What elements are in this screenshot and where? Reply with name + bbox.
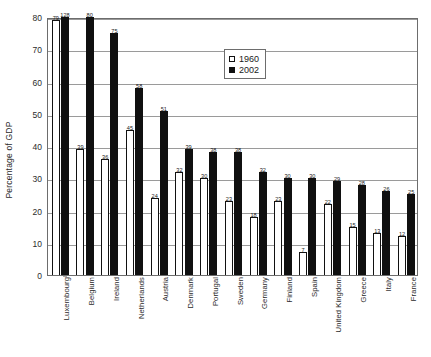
y-axis-title: Percentage of GDP <box>4 100 14 220</box>
bar-group: 1528 <box>345 19 370 275</box>
x-label-ireland: Ireland <box>112 277 121 301</box>
x-label-germany: Germany <box>260 277 269 309</box>
bar-value-2002-greece: 28 <box>359 180 365 186</box>
bar-2002-greece <box>358 185 366 275</box>
y-tick-10: 10 <box>20 239 42 249</box>
x-label-netherlands: Netherlands <box>137 277 146 319</box>
legend-swatch-2002-icon <box>229 67 235 73</box>
bar-value-1960-germany: 18 <box>251 212 257 218</box>
bar-1960-sweden <box>225 201 233 275</box>
y-tick-80: 80 <box>20 13 42 23</box>
bar-value-2002-france: 25 <box>408 189 414 195</box>
bar-value-2002-portugal: 38 <box>210 147 216 153</box>
bar-1960-united-kingdom <box>324 204 332 275</box>
bar-group: 3675 <box>97 19 122 275</box>
bar-1960-netherlands <box>126 130 134 275</box>
x-axis-category-labels: LuxembourgBelgiumIrelandNetherlandsAustr… <box>47 277 418 343</box>
bar-2002-germany <box>259 172 267 275</box>
bar-2002-united-kingdom <box>333 181 341 275</box>
y-tick-20: 20 <box>20 207 42 217</box>
bar-value-2002-germany: 32 <box>260 167 266 173</box>
x-label-austria: Austria <box>161 277 170 301</box>
legend-item-2002: 2002 <box>229 64 259 75</box>
y-tick-30: 30 <box>20 174 42 184</box>
y-tick-60: 60 <box>20 78 42 88</box>
bar-value-1960-portugal: 30 <box>201 173 207 179</box>
bar-group: 2330 <box>271 19 296 275</box>
bar-group: 1225 <box>394 19 419 275</box>
bar-value-1960-finland: 23 <box>275 196 281 202</box>
bar-1960-austria <box>151 198 159 275</box>
bar-1960-finland <box>274 201 282 275</box>
bar-value-1960-italy: 13 <box>374 228 380 234</box>
bar-2002-netherlands <box>135 88 143 275</box>
bar-value-1960-greece: 15 <box>349 222 355 228</box>
bar-2002-ireland <box>110 33 118 275</box>
bar-group: 2451 <box>147 19 172 275</box>
bar-2002-france <box>407 194 415 275</box>
bar-2002-spain <box>308 178 316 275</box>
x-label-italy: Italy <box>384 277 393 291</box>
x-label-denmark: Denmark <box>186 277 195 309</box>
bar-value-1960-spain: 7 <box>302 247 305 253</box>
legend-item-1960: 1960 <box>229 53 259 64</box>
bar-group: 3239 <box>172 19 197 275</box>
bar-2002-italy <box>382 191 390 275</box>
bar-value-2002-netherlands: 58 <box>136 83 142 89</box>
legend-label-1960: 1960 <box>239 54 259 64</box>
legend: 1960 2002 <box>224 49 266 79</box>
bar-1960-ireland <box>101 159 109 275</box>
bar-group: 1326 <box>370 19 395 275</box>
bar-value-1960-netherlands: 45 <box>127 125 133 131</box>
y-tick-0: 0 <box>20 271 42 281</box>
y-tick-50: 50 <box>20 110 42 120</box>
bar-group: 3038 <box>196 19 221 275</box>
bar-group: 3980 <box>73 19 98 275</box>
bar-2002-denmark <box>185 149 193 275</box>
bar-value-2002-spain: 30 <box>309 173 315 179</box>
bar-1960-portugal <box>200 178 208 275</box>
bar-value-1960-sweden: 23 <box>226 196 232 202</box>
bar-2002-finland <box>284 178 292 275</box>
bar-1960-belgium <box>76 149 84 275</box>
x-label-portugal: Portugal <box>211 277 220 306</box>
bar-value-2002-austria: 51 <box>161 106 167 112</box>
bar-1960-denmark <box>175 172 183 275</box>
x-label-belgium: Belgium <box>87 277 96 305</box>
bar-value-1960-france: 12 <box>399 231 405 237</box>
x-label-luxembourg: Luxembourg <box>62 277 71 320</box>
bar-value-1960-united-kingdom: 22 <box>325 199 331 205</box>
bar-group: 2229 <box>320 19 345 275</box>
x-label-greece: Greece <box>359 277 368 303</box>
bar-1960-luxembourg <box>52 20 60 275</box>
y-tick-70: 70 <box>20 45 42 55</box>
x-label-finland: Finland <box>285 277 294 303</box>
bar-value-2002-sweden: 38 <box>235 147 241 153</box>
bar-value-2002-finland: 30 <box>284 173 290 179</box>
bar-2002-luxembourg <box>61 17 69 275</box>
x-label-spain: Spain <box>310 277 319 297</box>
bar-group: 4558 <box>122 19 147 275</box>
x-label-sweden: Sweden <box>236 277 245 305</box>
bar-2002-belgium <box>86 17 94 275</box>
bar-value-1960-belgium: 39 <box>77 144 83 150</box>
bar-1960-greece <box>349 227 357 275</box>
bar-value-2002-ireland: 75 <box>111 28 117 34</box>
bar-2002-austria <box>160 111 168 275</box>
y-axis-tick-labels: 01020304050607080 <box>20 18 42 276</box>
legend-label-2002: 2002 <box>239 65 259 75</box>
legend-swatch-1960-icon <box>229 56 235 62</box>
bar-value-2002-belgium: 80 <box>87 12 93 18</box>
bar-value-1960-denmark: 32 <box>176 167 182 173</box>
bar-1960-germany <box>250 217 258 275</box>
y-tick-40: 40 <box>20 142 42 152</box>
bar-1960-spain <box>299 252 307 275</box>
bar-2002-portugal <box>209 152 217 275</box>
bar-value-2002-denmark: 39 <box>185 144 191 150</box>
bar-value-1960-luxembourg: 79 <box>53 15 59 21</box>
bar-2002-sweden <box>234 152 242 275</box>
bar-value-2002-united-kingdom: 29 <box>334 176 340 182</box>
figure: Percentage of GDP 01020304050607080 7912… <box>0 0 431 357</box>
bar-value-1960-austria: 24 <box>152 193 158 199</box>
bar-group: 730 <box>295 19 320 275</box>
